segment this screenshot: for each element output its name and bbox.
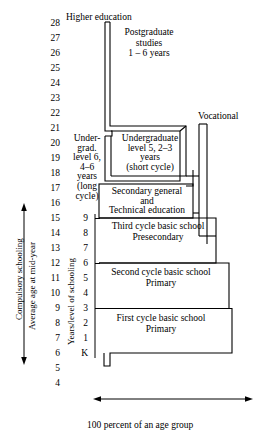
education-system-diagram: 28 27 26 25 24 23 22 21 20 19 18 17 16 1… xyxy=(0,0,270,442)
diagram-linework xyxy=(0,0,270,442)
level-axis-line xyxy=(95,214,100,358)
compulsory-schooling-arrow xyxy=(21,203,27,365)
undergrad-long-box xyxy=(105,136,111,181)
first-cycle-box xyxy=(99,309,232,367)
secondary-box xyxy=(99,184,199,218)
age-group-width-arrow xyxy=(93,396,253,402)
second-cycle-box xyxy=(99,263,229,309)
postgraduate-box xyxy=(105,22,118,136)
undergrad-short-box xyxy=(108,126,186,181)
